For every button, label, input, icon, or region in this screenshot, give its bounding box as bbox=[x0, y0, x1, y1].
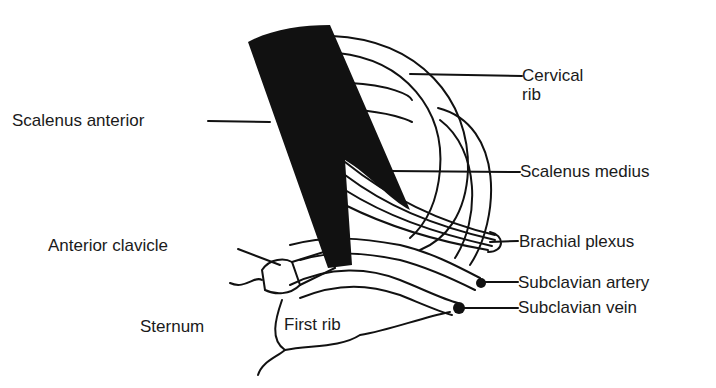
label-anterior-clavicle: Anterior clavicle bbox=[48, 236, 168, 255]
label-first-rib: First rib bbox=[284, 315, 341, 334]
leader-brachial-plexus bbox=[490, 241, 518, 242]
clavicle-outline bbox=[262, 260, 300, 294]
label-sternum: Sternum bbox=[140, 317, 204, 336]
label-brachial-plexus: Brachial plexus bbox=[519, 232, 634, 251]
leader-scalenus-anterior bbox=[208, 121, 270, 122]
label-cervical-rib: Cervical rib bbox=[522, 66, 583, 104]
leader-scalenus-medius bbox=[390, 171, 520, 172]
label-scalenus-anterior: Scalenus anterior bbox=[12, 111, 144, 130]
subclavian-vein-end bbox=[453, 302, 465, 314]
scalenus-anterior-muscle bbox=[248, 25, 410, 268]
label-scalenus-medius: Scalenus medius bbox=[520, 162, 649, 181]
leader-cervical-rib bbox=[410, 74, 522, 76]
label-subclavian-vein: Subclavian vein bbox=[518, 298, 637, 317]
subclavian-artery-end bbox=[476, 278, 486, 288]
label-subclavian-artery: Subclavian artery bbox=[518, 273, 649, 292]
anatomy-drawing bbox=[0, 0, 716, 388]
leader-anterior-clavicle bbox=[238, 249, 280, 265]
